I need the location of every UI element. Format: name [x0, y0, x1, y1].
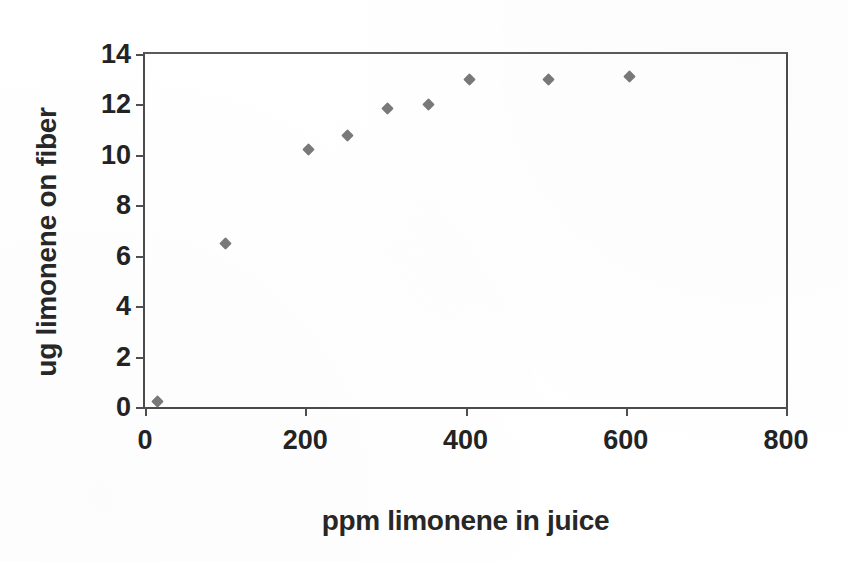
- plot-area: 024681012140200400600800: [143, 52, 788, 409]
- x-axis-tick-label: 0: [100, 427, 190, 454]
- y-axis-tick-label: 10: [71, 142, 131, 169]
- x-axis-tick: [305, 407, 307, 416]
- data-point: [463, 73, 476, 86]
- y-axis-tick-label: 14: [71, 41, 131, 68]
- y-axis-tick-label: 0: [71, 394, 131, 421]
- x-axis-tick: [786, 407, 788, 416]
- data-point: [422, 98, 435, 111]
- data-point: [151, 396, 164, 409]
- y-axis-tick: [136, 256, 145, 258]
- y-axis-tick: [136, 407, 145, 409]
- y-axis-tick: [136, 155, 145, 157]
- data-point: [302, 143, 315, 156]
- y-axis-tick-label: 2: [71, 344, 131, 371]
- y-axis-tick: [136, 54, 145, 56]
- y-axis-title: ug limonene on fiber: [24, 32, 70, 452]
- data-point: [341, 130, 354, 143]
- x-axis-tick: [145, 407, 147, 416]
- y-axis-tick-label: 6: [71, 243, 131, 270]
- y-axis-tick: [136, 104, 145, 106]
- x-axis-tick-label: 400: [421, 427, 511, 454]
- x-axis-tick: [466, 407, 468, 416]
- y-axis-tick: [136, 205, 145, 207]
- x-axis-tick-label: 200: [260, 427, 350, 454]
- data-point: [623, 70, 636, 83]
- x-axis-title: ppm limonene in juice: [143, 505, 788, 537]
- x-axis-tick-label: 800: [741, 427, 831, 454]
- y-axis-tick: [136, 306, 145, 308]
- y-axis-tick-label: 8: [71, 192, 131, 219]
- y-axis-tick-label: 4: [71, 293, 131, 320]
- y-axis-tick: [136, 357, 145, 359]
- y-axis-tick-label: 12: [71, 91, 131, 118]
- data-point: [219, 237, 232, 250]
- scatter-chart-figure: ug limonene on fiber 0246810121402004006…: [0, 0, 848, 562]
- x-axis-tick-label: 600: [581, 427, 671, 454]
- data-point: [542, 73, 555, 86]
- data-point: [381, 102, 394, 115]
- x-axis-tick: [626, 407, 628, 416]
- data-points-layer: [145, 54, 786, 407]
